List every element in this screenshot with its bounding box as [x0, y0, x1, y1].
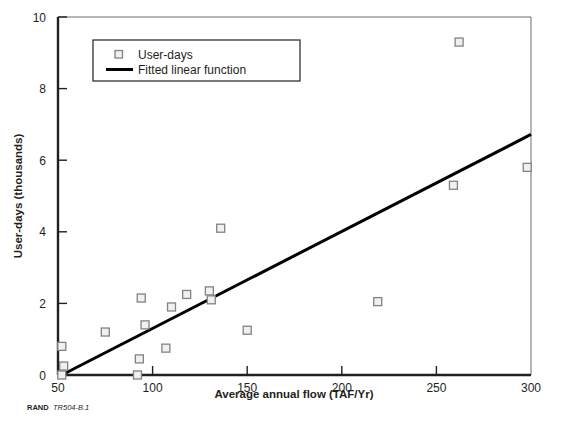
legend-swatch-user-days [115, 51, 123, 59]
data-point [455, 38, 463, 46]
x-tick-label-100: 100 [143, 381, 163, 395]
figure-container: 0246810 User-days (thousands) 5010015020… [0, 0, 566, 427]
x-tick-group [153, 366, 437, 375]
x-axis: 50100150200250300 Average annual flow (T… [51, 366, 541, 400]
data-point [523, 163, 531, 171]
data-point [137, 294, 145, 302]
data-point [141, 321, 149, 329]
data-point [217, 224, 225, 232]
y-tick-label-0: 0 [39, 369, 46, 383]
legend-label-user-days: User-days [138, 48, 193, 62]
y-tick-label-group: 0246810 [33, 11, 47, 383]
y-axis-title: User-days (thousands) [12, 134, 24, 259]
credit-prefix: RAND [27, 403, 49, 412]
data-point [243, 326, 251, 334]
legend-label-fitted-line: Fitted linear function [138, 63, 246, 77]
y-tick-group [58, 17, 67, 375]
data-point [449, 181, 457, 189]
y-tick-label-6: 6 [39, 154, 46, 168]
x-axis-title: Average annual flow (TAF/Yr) [214, 388, 373, 400]
x-tick-label-300: 300 [521, 381, 541, 395]
user-days-data-points [58, 38, 531, 379]
y-tick-label-2: 2 [39, 297, 46, 311]
data-point [135, 355, 143, 363]
credit-line: RAND TR504-B.1 [27, 403, 89, 412]
y-tick-label-8: 8 [39, 82, 46, 96]
y-tick-label-10: 10 [33, 11, 47, 25]
data-point [374, 298, 382, 306]
data-point [58, 342, 66, 350]
data-point [101, 328, 109, 336]
data-point [162, 344, 170, 352]
fitted-linear-function-line [62, 134, 531, 375]
data-point [207, 296, 215, 304]
y-tick-label-4: 4 [39, 225, 46, 239]
data-point [183, 290, 191, 298]
data-point [133, 371, 141, 379]
credit-id: TR504-B.1 [53, 403, 89, 412]
data-point [168, 303, 176, 311]
data-point [58, 371, 66, 379]
data-point [205, 287, 213, 295]
legend: User-days Fitted linear function [93, 40, 300, 81]
x-tick-label-50: 50 [51, 381, 65, 395]
data-point [60, 362, 68, 370]
y-axis: 0246810 User-days (thousands) [12, 11, 67, 383]
x-tick-label-250: 250 [426, 381, 446, 395]
scatter-plot: 0246810 User-days (thousands) 5010015020… [0, 0, 566, 427]
